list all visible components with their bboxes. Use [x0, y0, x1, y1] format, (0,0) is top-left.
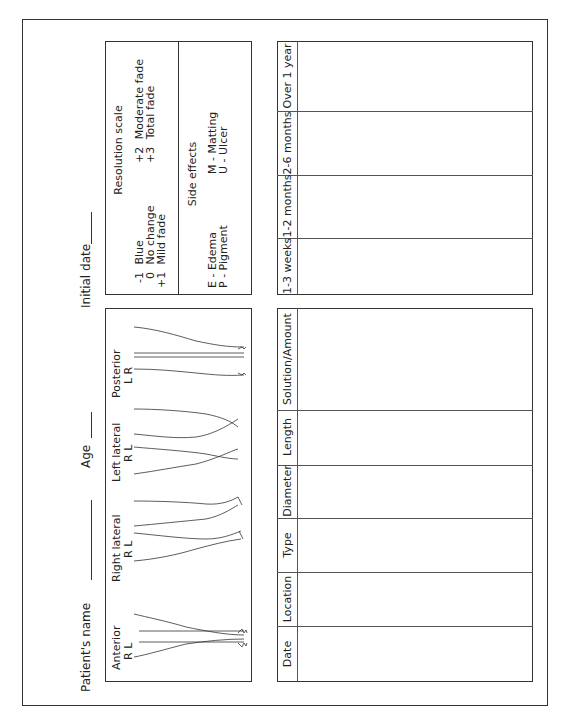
treatment-header-solution-amount: Solution/Amount	[281, 313, 294, 405]
side-effect-ulcer: U - Ulcer	[217, 127, 230, 174]
treatment-header-location: Location	[281, 576, 294, 623]
view-sides-right-lateral: R L	[122, 541, 135, 558]
legend-divider	[178, 41, 179, 295]
followup-cell-1-2-months[interactable]	[298, 176, 532, 238]
age-label: Age	[80, 445, 93, 468]
followup-header-1-2-months: 1-2 months	[281, 175, 294, 238]
view-sides-posterior: L R	[122, 367, 135, 384]
initial-date-field[interactable]	[91, 212, 92, 244]
treatment-cell-location[interactable]	[298, 573, 532, 626]
treatment-cell-date[interactable]	[298, 627, 532, 681]
treatment-header-diameter: Diameter	[281, 465, 294, 516]
resolution-scale-title: Resolution scale	[112, 105, 125, 194]
leg-diagrams-icon	[106, 309, 253, 683]
treatment-header-type: Type	[281, 532, 294, 557]
patient-name-label: Patient's name	[80, 603, 93, 692]
followup-header-2-6-months: 2-6 months	[281, 112, 294, 175]
patient-name-field[interactable]	[91, 500, 92, 580]
side-effects-title: Side effects	[186, 142, 199, 207]
resolution-item-5: +3 Total fade	[144, 86, 157, 163]
treatment-cell-length[interactable]	[298, 411, 532, 465]
followup-cell-1-3-weeks[interactable]	[298, 239, 532, 294]
side-effect-pigment: P - Pigment	[217, 225, 230, 288]
age-field[interactable]	[91, 412, 92, 438]
leg-diagram-box	[105, 308, 252, 682]
view-sides-left-lateral: R L	[122, 445, 135, 462]
followup-cell-over-1-year[interactable]	[298, 42, 532, 111]
treatment-cell-diameter[interactable]	[298, 466, 532, 518]
initial-date-label: Initial date	[80, 244, 93, 308]
treatment-header-length: Length	[281, 418, 294, 456]
resolution-item-3: +1 Mild fade	[155, 214, 168, 288]
view-sides-anterior: R L	[122, 643, 135, 660]
followup-header-over-1-year: Over 1 year	[281, 44, 294, 109]
followup-cell-2-6-months[interactable]	[298, 112, 532, 175]
treatment-cell-solution-amount[interactable]	[298, 309, 532, 410]
treatment-cell-type[interactable]	[298, 519, 532, 572]
followup-header-1-3-weeks: 1-3 weeks	[281, 238, 294, 294]
treatment-header-date: Date	[281, 641, 294, 667]
